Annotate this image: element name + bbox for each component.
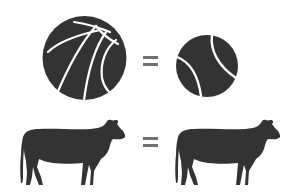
cow-icon-left [20, 120, 125, 185]
equals-sign-2 [143, 137, 158, 147]
basketball-icon [43, 16, 127, 100]
cow-icon-right [175, 120, 280, 185]
equivalence-figure [0, 0, 298, 196]
tennis-ball-icon [176, 35, 238, 97]
equals-sign-1 [143, 56, 158, 66]
